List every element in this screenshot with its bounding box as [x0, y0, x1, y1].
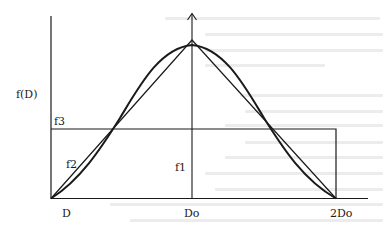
- label-f2: f2: [66, 159, 77, 170]
- x-tick-label-d: D: [62, 208, 71, 219]
- figure-canvas: f(D) f3 f2 f1 D Do 2Do: [0, 0, 385, 227]
- diagram-graphic: [0, 0, 385, 227]
- f2-bell-curve: [51, 45, 336, 199]
- y-axis-label: f(D): [16, 89, 37, 100]
- x-tick-label-2do: 2Do: [330, 208, 352, 219]
- x-tick-label-do: Do: [184, 208, 199, 219]
- f3-rectangle: [51, 129, 336, 199]
- f1-triangle: [51, 40, 336, 199]
- label-f1: f1: [175, 162, 186, 173]
- label-f3: f3: [54, 116, 65, 127]
